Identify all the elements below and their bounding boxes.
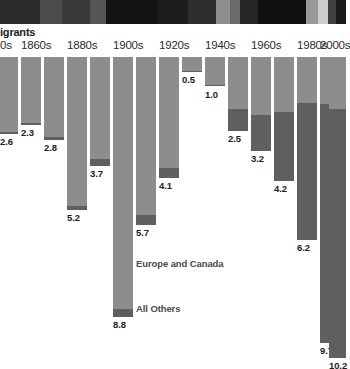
bar-1850s[interactable] xyxy=(0,57,18,134)
legend-label: All Others xyxy=(136,303,180,314)
legend-item-europe-canada: Europe and Canada xyxy=(136,253,224,271)
photo-banner xyxy=(0,0,346,24)
bar-segment-europe-canada xyxy=(182,57,202,71)
bar-value-1900s: 8.8 xyxy=(113,319,126,330)
plot-area: 2.62.32.85.23.78.85.74.10.51.02.53.24.26… xyxy=(0,57,346,369)
bar-value-1950s: 2.5 xyxy=(228,133,241,144)
bar-segment-europe-canada xyxy=(136,57,156,215)
bar-value-1890s: 3.7 xyxy=(90,168,103,179)
bar-segment-all-others xyxy=(329,109,346,358)
bar-1950s[interactable] xyxy=(228,57,248,131)
bar-value-1930s: 0.5 xyxy=(182,74,195,85)
photo-segment xyxy=(90,0,106,24)
bar-1930s[interactable] xyxy=(182,57,202,72)
bar-value-1870s: 2.8 xyxy=(44,142,57,153)
photo-segment xyxy=(318,0,328,24)
bar-1890s[interactable] xyxy=(90,57,110,166)
immigration-chart: igrants 0s1860s1880s1900s1920s1940s1960s… xyxy=(0,24,346,369)
bar-segment-europe-canada xyxy=(205,57,225,85)
bar-segment-europe-canada xyxy=(0,57,18,132)
x-axis-tick-1880s: 1880s xyxy=(67,39,97,51)
bar-value-2000s: 10.2 xyxy=(329,360,347,369)
bar-value-1960s: 3.2 xyxy=(251,153,264,164)
photo-segment xyxy=(258,0,306,24)
bar-1920s[interactable] xyxy=(159,57,179,178)
bar-segment-all-others xyxy=(136,215,156,225)
photo-segment xyxy=(306,0,318,24)
bar-1970s[interactable] xyxy=(274,57,294,181)
bar-value-1880s: 5.2 xyxy=(67,212,80,223)
x-axis-tick-1920s: 1920s xyxy=(159,39,189,51)
photo-segment xyxy=(336,0,346,24)
photo-segment xyxy=(188,0,216,24)
bar-segment-all-others xyxy=(44,137,64,139)
bar-segment-all-others xyxy=(90,159,110,166)
bar-2000s[interactable] xyxy=(329,57,346,358)
bar-1910s[interactable] xyxy=(136,57,156,225)
bar-1960s[interactable] xyxy=(251,57,271,151)
bar-value-1980s: 6.2 xyxy=(297,242,310,253)
bar-1940s[interactable] xyxy=(205,57,225,87)
bar-segment-europe-canada xyxy=(44,57,64,137)
x-axis-tick-2000s: 2000s xyxy=(320,39,350,51)
bar-segment-europe-canada xyxy=(251,57,271,115)
bar-1860s[interactable] xyxy=(21,57,41,125)
bar-segment-all-others xyxy=(297,103,317,240)
bar-value-1850s: 2.6 xyxy=(0,136,13,147)
photo-segment xyxy=(158,0,188,24)
photo-segment xyxy=(106,0,158,24)
bar-segment-all-others xyxy=(113,309,133,316)
photo-segment xyxy=(240,0,258,24)
bar-segment-europe-canada xyxy=(274,57,294,112)
bar-segment-europe-canada xyxy=(21,57,41,123)
bar-value-1970s: 4.2 xyxy=(274,183,287,194)
legend-label: Europe and Canada xyxy=(136,258,224,269)
bar-value-1910s: 5.7 xyxy=(136,227,149,238)
bar-segment-all-others xyxy=(274,112,294,181)
x-axis-tick-1860s: 1860s xyxy=(21,39,51,51)
bar-segment-europe-canada xyxy=(159,57,179,168)
x-axis-tick-labels: 0s1860s1880s1900s1920s1940s1960s1980s200… xyxy=(0,39,346,53)
x-axis-tick-1960s: 1960s xyxy=(251,39,281,51)
x-axis-tick-1850s: 0s xyxy=(0,39,12,51)
bar-segment-all-others xyxy=(159,168,179,178)
bar-1980s[interactable] xyxy=(297,57,317,240)
photo-segment xyxy=(0,0,40,24)
bar-value-1860s: 2.3 xyxy=(21,127,34,138)
bar-segment-all-others xyxy=(205,85,225,86)
bar-value-1940s: 1.0 xyxy=(205,89,218,100)
x-axis-tick-1900s: 1900s xyxy=(113,39,143,51)
bar-segment-europe-canada xyxy=(297,57,317,103)
bar-segment-all-others xyxy=(21,123,41,124)
legend-item-all-others: All Others xyxy=(136,298,180,316)
bar-segment-europe-canada xyxy=(67,57,87,206)
photo-segment xyxy=(62,0,90,24)
bar-segment-all-others xyxy=(0,132,18,133)
bar-1870s[interactable] xyxy=(44,57,64,140)
bar-1900s[interactable] xyxy=(113,57,133,317)
bar-segment-all-others xyxy=(182,71,202,72)
photo-segment xyxy=(230,0,240,24)
bar-segment-all-others xyxy=(228,109,248,131)
photo-segment xyxy=(216,0,230,24)
bar-segment-all-others xyxy=(67,206,87,210)
bar-1880s[interactable] xyxy=(67,57,87,210)
bar-segment-europe-canada xyxy=(113,57,133,309)
x-axis-tick-1940s: 1940s xyxy=(205,39,235,51)
photo-segment xyxy=(328,0,336,24)
bar-segment-europe-canada xyxy=(90,57,110,159)
bar-segment-europe-canada xyxy=(329,57,346,109)
chart-title: igrants xyxy=(0,26,35,38)
bar-segment-europe-canada xyxy=(228,57,248,109)
bar-segment-all-others xyxy=(251,115,271,152)
photo-segment xyxy=(40,0,62,24)
bar-value-1920s: 4.1 xyxy=(159,180,172,191)
